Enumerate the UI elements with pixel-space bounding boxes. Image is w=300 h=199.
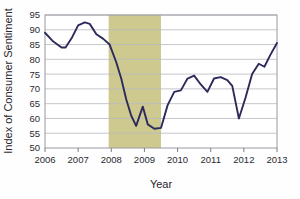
y-tick-label: 80 — [29, 54, 40, 65]
consumer-sentiment-chart: 50556065707580859095 2006200720082009201… — [0, 0, 300, 199]
y-tick-label: 65 — [29, 98, 40, 109]
x-tick-label: 2007 — [68, 154, 89, 165]
y-tick-label: 50 — [29, 142, 40, 153]
x-axis-tickmarks — [45, 148, 277, 152]
y-tick-label: 70 — [29, 83, 40, 94]
x-tick-label: 2009 — [134, 154, 155, 165]
x-tick-label: 2010 — [167, 154, 188, 165]
y-tick-label: 95 — [29, 9, 40, 20]
y-tick-label: 90 — [29, 24, 40, 35]
y-tick-label: 60 — [29, 113, 40, 124]
y-tick-label: 55 — [29, 128, 40, 139]
y-tick-label: 75 — [29, 69, 40, 80]
y-axis-title: Index of Consumer Sentiment — [2, 8, 14, 154]
y-tick-label: 85 — [29, 39, 40, 50]
y-axis-tick-labels: 50556065707580859095 — [29, 9, 40, 153]
chart-canvas: 50556065707580859095 2006200720082009201… — [0, 0, 300, 199]
x-tick-label: 2008 — [101, 154, 122, 165]
x-tick-label: 2011 — [200, 154, 220, 165]
x-tick-label: 2012 — [233, 154, 254, 165]
x-tick-label: 2006 — [34, 154, 55, 165]
x-tick-label: 2013 — [266, 154, 287, 165]
x-axis-title: Year — [150, 178, 173, 190]
x-axis-tick-labels: 20062007200820092010201120122013 — [34, 154, 287, 165]
